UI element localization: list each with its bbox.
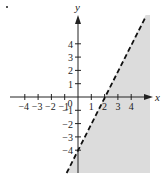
y-tick-label: −3 [62,132,73,143]
x-tick-label: −2 [45,101,56,112]
y-axis-label: y [74,1,80,13]
y-tick-label: 4 [68,39,73,50]
y-tick-label: −1 [62,105,73,116]
x-tick-label: 3 [115,101,120,112]
x-tick-label: 4 [129,101,134,112]
y-tick-label: −4 [62,145,73,156]
x-tick-label: −4 [18,101,29,112]
inequality-graph: −4−3−2−101234 4321−1−2−3−4 x y [0,0,162,181]
y-tick-label: 2 [68,65,73,76]
y-axis-arrow-icon [75,15,81,24]
x-axis-label: x [154,91,160,103]
x-tick-label: −3 [32,101,43,112]
y-tick-label: 3 [68,52,73,63]
y-tick-label: −2 [62,119,73,130]
y-tick-label: 1 [68,79,73,90]
x-tick-label: 2 [102,101,107,112]
x-tick-label: 1 [89,101,94,112]
